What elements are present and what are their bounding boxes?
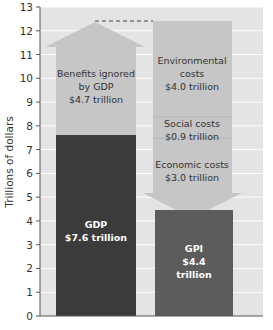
- gpi-label-line1: GPI: [185, 243, 203, 254]
- gdp-label: GDP: [85, 219, 108, 230]
- y-tick-label: 8: [26, 120, 33, 132]
- y-tick-label: 12: [20, 25, 33, 37]
- y-tick-label: 2: [26, 262, 33, 274]
- y-tick-label: 11: [20, 49, 33, 61]
- y-tick-label: 6: [26, 167, 33, 179]
- social-label-line1: Social costs: [164, 118, 220, 129]
- gpi-label-line3: trillion: [176, 269, 212, 280]
- y-axis-label: Trillions of dollars: [3, 116, 15, 208]
- y-tick-label: 13: [20, 1, 33, 13]
- y-tick-label: 1: [26, 286, 33, 298]
- y-tick-label: 10: [20, 72, 33, 84]
- y-tick-label: 4: [26, 215, 33, 227]
- gpi-label-line2: $4.4: [182, 256, 206, 267]
- social-label-line2: $0.9 trillion: [165, 131, 219, 142]
- benefits-label-line2: by GDP: [78, 81, 113, 92]
- y-tick-label: 5: [26, 191, 33, 203]
- benefits-label-line1: Benefits ignored: [57, 68, 135, 79]
- env-label-line1: Environmental: [157, 55, 226, 66]
- env-label-line2: costs: [180, 68, 205, 79]
- economic-label-line2: $3.0 trillion: [165, 172, 219, 183]
- env-label-line3: $4.0 trillion: [165, 81, 219, 92]
- y-axis-ticks: 012345678910111213: [20, 1, 40, 322]
- gdp-vs-gpi-chart: 012345678910111213 Trillions of dollars …: [0, 0, 273, 330]
- gdp-value-label: $7.6 trillion: [65, 232, 128, 243]
- benefits-label-line3: $4.7 trillion: [69, 94, 123, 105]
- y-tick-label: 9: [26, 96, 33, 108]
- economic-label-line1: Economic costs: [155, 159, 229, 170]
- y-tick-label: 7: [26, 144, 33, 156]
- y-tick-label: 0: [26, 310, 33, 322]
- y-tick-label: 3: [26, 239, 33, 251]
